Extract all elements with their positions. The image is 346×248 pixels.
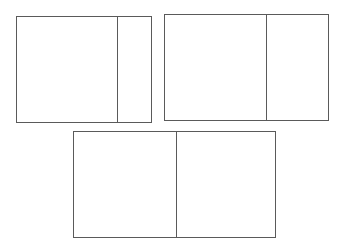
- split-rectangle-1: [16, 16, 152, 123]
- vertical-divider: [266, 15, 267, 120]
- vertical-divider: [117, 17, 118, 122]
- vertical-divider: [176, 132, 177, 237]
- split-rectangle-3: [73, 131, 276, 238]
- split-rectangle-2: [164, 14, 329, 121]
